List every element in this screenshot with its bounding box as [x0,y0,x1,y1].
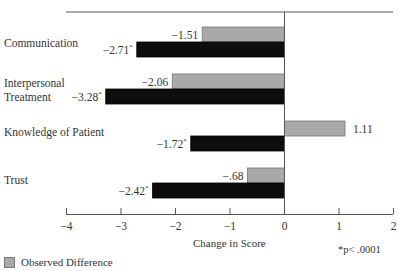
x-axis-title: Change in Score [193,237,266,249]
category-label-knowledge-of-patient: Knowledge of Patient [4,125,104,139]
x-tick-label: −4 [60,220,72,232]
x-tick-label: 2 [391,220,397,232]
x-tick-label: −3 [115,220,127,232]
bar-adjusted-trust [153,183,285,198]
category-label-communication: Communication [4,36,78,50]
category-label-trust: Trust [4,173,28,187]
bar-value-label: −2.42* [118,184,149,197]
bar-observed-trust [247,168,284,183]
bar-adjusted-communication [137,42,285,57]
x-tick-label: −2 [169,220,181,232]
bar-adjusted-interpersonal-treatment [106,89,285,104]
legend-label-observed: Observed Difference [21,256,113,268]
x-tick-label: 0 [282,220,288,232]
legend-swatch-observed [4,257,15,268]
bar-value-label: −2.71* [103,43,134,56]
bar-value-label: 1.11 [353,123,373,135]
x-axis-ticks: −4−3−2−1012 [60,208,396,232]
bar-value-label: −1.72* [157,137,188,150]
bar-observed-communication [202,27,284,42]
x-tick-label: −1 [224,220,236,232]
bar-value-label: −1.51 [172,29,199,41]
significance-footnote: *p< .0001 [338,244,381,255]
bar-value-label: −.68 [223,170,244,182]
bar-value-label: −3.28* [72,90,103,103]
x-tick-label: 1 [336,220,342,232]
bar-observed-interpersonal-treatment [172,74,284,89]
bar-value-label: −2.06 [142,76,169,88]
category-label-interpersonal-treatment: InterpersonalTreatment [4,76,65,104]
legend: Observed Difference [4,256,113,268]
bar-adjusted-knowledge-of-patient [191,136,285,151]
bar-observed-knowledge-of-patient [285,121,345,136]
